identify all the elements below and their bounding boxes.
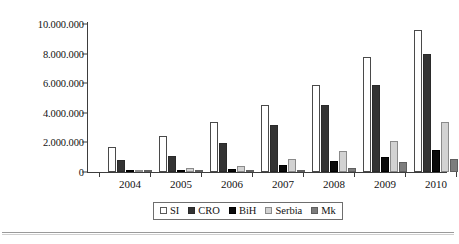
x-axis-tick-mark [150,172,151,177]
y-axis-tick-mark [82,83,88,84]
bar-mk-2010 [450,159,458,172]
y-axis-tick-label: 6.000.000 [43,78,84,89]
legend-swatch-cro [188,207,195,214]
y-axis-tick-label: 8.000.000 [43,48,84,59]
legend-label: BiH [239,205,257,216]
bar-bih-2010 [432,150,440,172]
bar-cro-2005 [168,156,176,172]
y-axis-tick-mark [82,142,88,143]
y-axis-tick-label: 4.000.000 [43,107,84,118]
legend-item-mk[interactable]: Mk [311,205,336,216]
bar-group [108,24,153,172]
y-axis-tick-label: 2.000.000 [43,137,84,148]
bar-cro-2008 [321,105,329,172]
bar-si-2006 [210,122,218,172]
legend-item-bih[interactable]: BiH [229,205,257,216]
bar-bih-2009 [381,157,389,172]
legend-item-serbia[interactable]: Serbia [265,205,302,216]
bar-bih-2008 [330,161,338,172]
bar-si-2007 [261,105,269,172]
y-axis-tick-mark [82,112,88,113]
plot-area [88,24,446,172]
bar-group [312,24,357,172]
bar-group [210,24,255,172]
legend-item-cro[interactable]: CRO [188,205,220,216]
x-axis-line [87,172,447,173]
bar-si-2008 [312,85,320,172]
bar-si-2004 [108,147,116,172]
x-axis-tick-mark [99,172,100,177]
bar-cro-2006 [219,143,227,172]
bar-serbia-2010 [441,122,449,172]
x-axis-tick-mark [303,172,304,177]
bar-si-2009 [363,57,371,172]
legend-label: Mk [321,205,336,216]
x-axis-tick-mark [456,172,457,177]
bar-mk-2009 [399,162,407,172]
legend-label: CRO [198,205,220,216]
x-axis-tick-mark [405,172,406,177]
legend-swatch-mk [311,207,318,214]
legend-label: SI [170,205,179,216]
x-axis-label-2009: 2009 [374,178,396,190]
y-axis-tick-mark [82,24,88,25]
x-axis-label-2007: 2007 [272,178,294,190]
chart-legend: SICROBiHSerbiaMk [153,202,343,220]
legend-swatch-si [160,207,167,214]
y-axis-tick-mark [82,172,88,173]
legend-swatch-serbia [265,207,272,214]
legend-label: Serbia [275,205,302,216]
x-axis-label-2008: 2008 [323,178,345,190]
x-axis-label-2004: 2004 [119,178,141,190]
bar-cro-2009 [372,85,380,172]
y-axis-line [87,22,88,173]
bar-cro-2010 [423,54,431,172]
page-divider-rule [2,232,454,233]
bar-si-2010 [414,30,422,172]
bar-serbia-2008 [339,151,347,172]
legend-item-si[interactable]: SI [160,205,179,216]
x-axis-label-2006: 2006 [221,178,243,190]
bar-cro-2004 [117,160,125,172]
bar-serbia-2007 [288,159,296,172]
y-axis-tick-label: 10.000.000 [38,19,84,30]
x-axis-tick-mark [252,172,253,177]
bar-group [261,24,306,172]
bar-cro-2007 [270,125,278,172]
bar-serbia-2009 [390,141,398,172]
x-axis-tick-mark [201,172,202,177]
bar-bih-2007 [279,165,287,172]
x-axis-label-2005: 2005 [170,178,192,190]
page-divider-rule-shadow [2,234,454,235]
x-axis-label-2010: 2010 [425,178,447,190]
bar-group [363,24,408,172]
y-axis-tick-mark [82,53,88,54]
bar-group [159,24,204,172]
bar-group [414,24,459,172]
legend-swatch-bih [229,207,236,214]
bar-si-2005 [159,136,167,172]
x-axis-tick-mark [354,172,355,177]
